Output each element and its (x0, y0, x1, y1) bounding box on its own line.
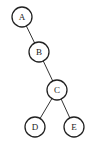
node-b: B (29, 42, 49, 62)
node-d: D (25, 117, 45, 137)
tree-diagram: A B C D E (0, 0, 91, 144)
node-e: E (64, 117, 84, 137)
node-b-label: B (36, 47, 42, 57)
node-c: C (47, 80, 67, 100)
node-a: A (12, 7, 32, 27)
node-a-label: A (19, 12, 26, 22)
node-d-label: D (32, 122, 39, 132)
node-e-label: E (71, 122, 77, 132)
edges (22, 17, 74, 127)
node-c-label: C (54, 85, 60, 95)
